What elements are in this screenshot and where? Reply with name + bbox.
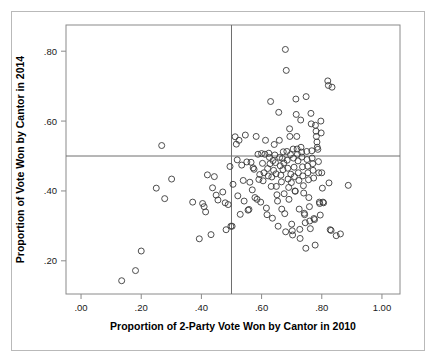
x-axis-tick-label: .60	[255, 302, 268, 313]
plot-frame	[66, 25, 400, 294]
y-axis-ticks: .20.40.60.80	[44, 46, 66, 267]
x-axis-tick-label: 1.00	[373, 302, 392, 313]
x-axis-tick-label: .20	[135, 302, 148, 313]
x-axis-title: Proportion of 2-Party Vote Won by Cantor…	[110, 320, 356, 332]
y-axis-title: Proportion of Vote Won by Cantor in 2014	[14, 56, 26, 263]
y-axis-tick-label: .40	[44, 185, 57, 196]
y-axis-tick-label: .20	[44, 255, 57, 266]
y-axis-tick-label: .60	[44, 116, 57, 127]
x-axis-tick-label: .40	[195, 302, 208, 313]
scatter-chart: .00.20.40.60.801.00 .20.40.60.80 Proport…	[0, 0, 437, 363]
x-axis-ticks: .00.20.40.60.801.00	[74, 294, 391, 313]
x-axis-tick-label: .80	[315, 302, 328, 313]
scatter-plot-figure: .00.20.40.60.801.00 .20.40.60.80 Proport…	[0, 0, 437, 363]
x-axis-tick-label: .00	[74, 302, 87, 313]
y-axis-tick-label: .80	[44, 46, 57, 57]
